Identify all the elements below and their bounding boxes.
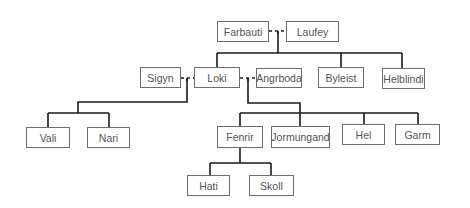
- node-label: Helblindi: [383, 73, 423, 85]
- node-label: Hati: [199, 180, 218, 192]
- node-helblindi: Helblindi: [382, 68, 425, 89]
- node-label: Farbauti: [224, 26, 263, 38]
- node-label: Jormungand: [271, 131, 329, 143]
- node-vali: Vali: [26, 127, 70, 148]
- node-byleist: Byleist: [318, 67, 364, 88]
- node-label: Loki: [207, 72, 226, 84]
- node-label: Skoll: [260, 180, 283, 192]
- node-label: Laufey: [297, 26, 329, 38]
- node-label: Angrboda: [256, 72, 302, 84]
- node-sigyn: Sigyn: [140, 67, 181, 88]
- node-fenrir: Fenrir: [217, 126, 263, 148]
- node-garm: Garm: [395, 124, 440, 145]
- node-label: Fenrir: [226, 131, 253, 143]
- node-jormungand: Jormungand: [271, 126, 330, 148]
- node-label: Garm: [404, 129, 430, 141]
- node-hati: Hati: [187, 175, 230, 196]
- node-label: Hel: [356, 129, 372, 141]
- node-nari: Nari: [87, 127, 130, 148]
- node-label: Sigyn: [147, 72, 173, 84]
- node-label: Nari: [99, 132, 118, 144]
- node-farbauti: Farbauti: [217, 21, 269, 42]
- node-label: Byleist: [326, 72, 357, 84]
- family-tree-diagram: Farbauti Laufey Sigyn Loki Angrboda Byle…: [0, 0, 470, 208]
- node-skoll: Skoll: [249, 175, 294, 196]
- node-loki: Loki: [194, 67, 240, 88]
- node-angrboda: Angrboda: [256, 68, 302, 88]
- node-laufey: Laufey: [286, 21, 339, 42]
- node-hel: Hel: [342, 124, 385, 145]
- node-label: Vali: [40, 132, 57, 144]
